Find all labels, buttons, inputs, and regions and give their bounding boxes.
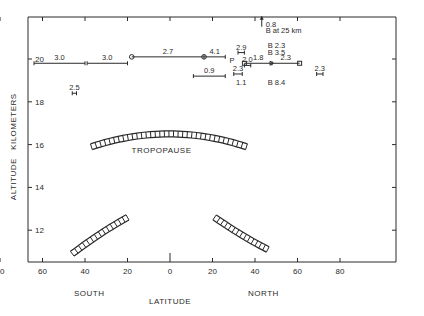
y-tick-label: 20 — [35, 55, 44, 64]
band-hatch — [100, 141, 102, 147]
band-hatch — [118, 219, 121, 224]
band-hatch — [237, 141, 239, 147]
range-bar: 2.9 — [236, 43, 246, 55]
tropopause-north-band — [213, 215, 269, 252]
range-bar: 2.5 — [69, 83, 79, 95]
band-hatch — [243, 234, 246, 239]
band-hatch — [86, 240, 89, 245]
annotation-text: P — [230, 56, 235, 65]
band-hatch — [95, 142, 97, 148]
band-hatch — [132, 134, 133, 140]
band-hatch — [241, 142, 243, 148]
band-hatch — [102, 229, 105, 234]
band-hatch — [137, 133, 138, 139]
band-hatch — [146, 132, 147, 138]
band-hatch — [191, 132, 192, 138]
band-hatch — [98, 232, 101, 237]
arrowhead-icon — [260, 16, 264, 20]
band-hatch — [232, 140, 234, 146]
band-hatch — [122, 217, 125, 222]
band-hatch — [123, 135, 124, 141]
y-tick-label: 16 — [35, 141, 44, 150]
band-hatch — [214, 135, 215, 141]
band-hatch — [217, 217, 220, 222]
x-tick-label: 0 — [168, 267, 173, 276]
range-bar: 0.9 — [193, 66, 225, 78]
band-hatch — [74, 248, 78, 253]
band-hatch — [209, 135, 210, 141]
x-tick-label: 60 — [38, 267, 47, 276]
x-tick-label: 20 — [208, 267, 217, 276]
x-tick-label: 80 — [336, 267, 345, 276]
band-hatch — [255, 241, 258, 246]
band-hatch — [266, 247, 269, 252]
band-hatch — [126, 215, 129, 220]
band-hatch — [232, 227, 235, 232]
band-hatch — [114, 137, 115, 143]
band-hatch — [259, 243, 262, 248]
band-hatch — [110, 224, 113, 229]
range-value-label: 3.0 — [54, 53, 64, 62]
south-label: SOUTH — [74, 289, 105, 298]
band-hatch — [228, 139, 229, 145]
band-hatch — [82, 243, 85, 248]
annotation-text: B at 25 km — [266, 26, 302, 35]
altitude-latitude-diagram: 806040200204060801214161820 3.03.02.52.7… — [0, 0, 424, 316]
annotation-text: B 8.4 — [268, 78, 286, 87]
range-value-label: 2.3 — [315, 64, 325, 73]
band-hatch — [104, 140, 106, 146]
y-tick-label: 14 — [35, 183, 44, 192]
y-tick-label: 12 — [35, 226, 44, 235]
annotation-text: 1.1 — [236, 78, 246, 87]
annotation-text: B 3.5 — [268, 48, 286, 57]
x-tick-label: 80 — [0, 267, 5, 276]
band-hatch — [224, 223, 227, 228]
band-hatch — [205, 134, 206, 140]
range-value-label: 3.0 — [102, 53, 112, 62]
range-bar: 4.1 — [204, 47, 225, 59]
x-tick-label: 60 — [293, 267, 302, 276]
range-bar: 2.3 — [233, 64, 243, 76]
band-hatch — [141, 133, 142, 139]
band-hatch — [106, 227, 109, 232]
band-hatch — [228, 225, 231, 230]
range-value-label: 0.9 — [204, 66, 214, 75]
north-label: NORTH — [248, 289, 279, 298]
band-hatch — [94, 234, 97, 239]
band-hatch — [213, 215, 216, 220]
band-edge — [74, 220, 129, 256]
range-bar: 2.3 — [315, 64, 325, 76]
range-bar: 3.0 — [87, 53, 127, 65]
band-hatch — [223, 137, 224, 143]
x-tick-label: 40 — [251, 267, 260, 276]
band-edge — [216, 215, 269, 247]
range-value-label: 1.8 — [253, 53, 263, 62]
range-value-label: 2.7 — [163, 47, 173, 56]
tropopause-label: TROPOPAUSE — [132, 146, 192, 155]
band-hatch — [90, 237, 93, 242]
band-hatch — [118, 136, 119, 142]
band-hatch — [109, 139, 110, 145]
band-hatch — [200, 133, 201, 139]
band-hatch — [70, 251, 74, 256]
range-value-label: 2.9 — [236, 43, 246, 52]
band-hatch — [263, 245, 266, 250]
band-hatch — [196, 133, 197, 139]
band-hatch — [246, 144, 248, 150]
band-hatch — [236, 230, 239, 235]
range-value-label: 4.1 — [209, 47, 219, 56]
band-hatch — [240, 232, 243, 237]
band-hatch — [78, 245, 82, 250]
range-value-label: 2.5 — [69, 83, 79, 92]
range-bar: 2.7 — [129, 47, 206, 59]
tropopause-south-band — [70, 215, 129, 256]
x-tick-label: 20 — [123, 267, 132, 276]
y-tick-label: 18 — [35, 98, 44, 107]
band-hatch — [114, 222, 117, 227]
band-hatch — [221, 220, 224, 225]
band-hatch — [218, 136, 219, 142]
band-hatch — [90, 144, 92, 150]
range-value-label: 2.3 — [233, 64, 243, 73]
band-hatch — [251, 239, 254, 244]
band-hatch — [247, 237, 250, 242]
